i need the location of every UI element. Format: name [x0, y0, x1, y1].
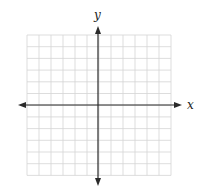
x-axis-label: x	[187, 98, 194, 112]
y-axis-bottom-arrow-icon	[95, 178, 101, 186]
y-axis-label: y	[93, 8, 101, 22]
x-axis-right-arrow-icon	[174, 102, 182, 108]
y-axis-top-arrow-icon	[95, 26, 101, 34]
axes	[18, 26, 182, 186]
x-axis-left-arrow-icon	[18, 102, 26, 108]
coordinate-plane: x y	[0, 0, 203, 193]
